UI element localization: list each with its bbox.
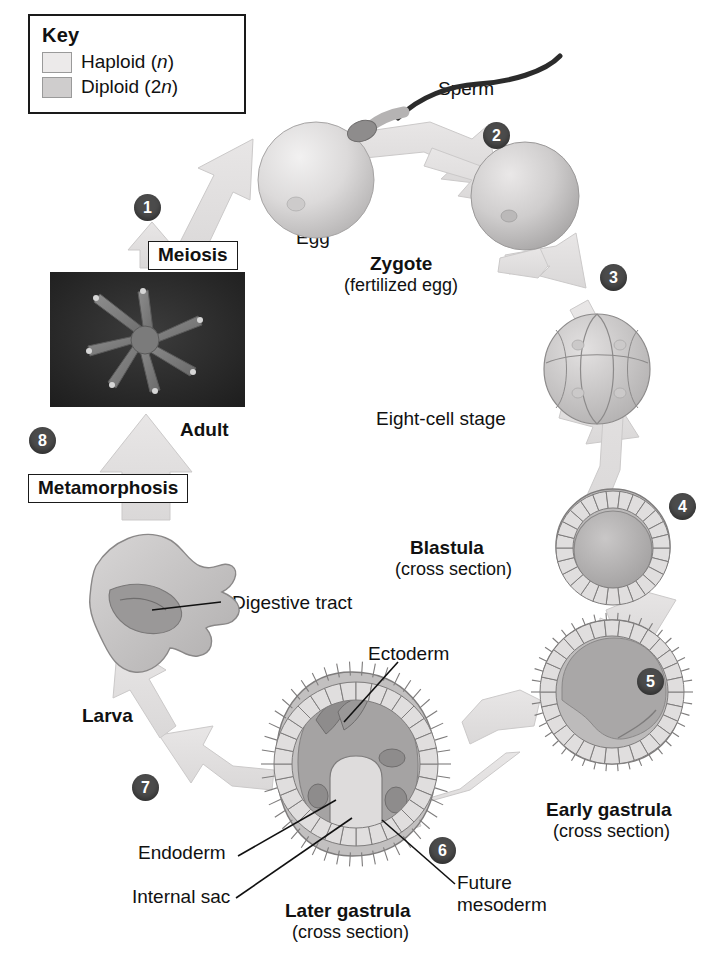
- life-cycle-diagram: Key Haploid (n) Diploid (2n) 1 2 3 4 5 6…: [0, 0, 709, 962]
- eight-cell-figure: [544, 314, 650, 424]
- step-circle-4: 4: [669, 493, 696, 520]
- meiosis-label: Meiosis: [148, 241, 238, 270]
- sea-star-photo-art: [50, 272, 245, 407]
- key-legend: Key Haploid (n) Diploid (2n): [28, 14, 246, 114]
- key-row-haploid: Haploid (n): [42, 51, 234, 73]
- haploid-label: Haploid (n): [81, 51, 174, 73]
- step-circle-5: 5: [637, 668, 664, 695]
- diploid-label: Diploid (2n): [81, 76, 178, 98]
- early-gastrula-figure: [531, 613, 693, 771]
- metamorphosis-label: Metamorphosis: [28, 474, 188, 503]
- step-circle-6: 6: [429, 837, 456, 864]
- adult-sea-star-photo: [50, 272, 245, 407]
- zygote-figure: [471, 142, 579, 250]
- step-circle-8: 8: [29, 427, 56, 454]
- blastula-figure: [556, 489, 670, 605]
- sperm-figure: [344, 56, 560, 146]
- key-title: Key: [42, 24, 234, 47]
- haploid-swatch: [42, 52, 72, 73]
- larva-figure: [90, 534, 239, 672]
- step-circle-2: 2: [483, 122, 510, 149]
- diploid-swatch: [42, 77, 72, 98]
- step-circle-7: 7: [132, 774, 159, 801]
- key-row-diploid: Diploid (2n): [42, 76, 234, 98]
- step-circle-1: 1: [134, 194, 161, 221]
- later-gastrula-figure: [261, 662, 451, 867]
- step-circle-3: 3: [600, 264, 627, 291]
